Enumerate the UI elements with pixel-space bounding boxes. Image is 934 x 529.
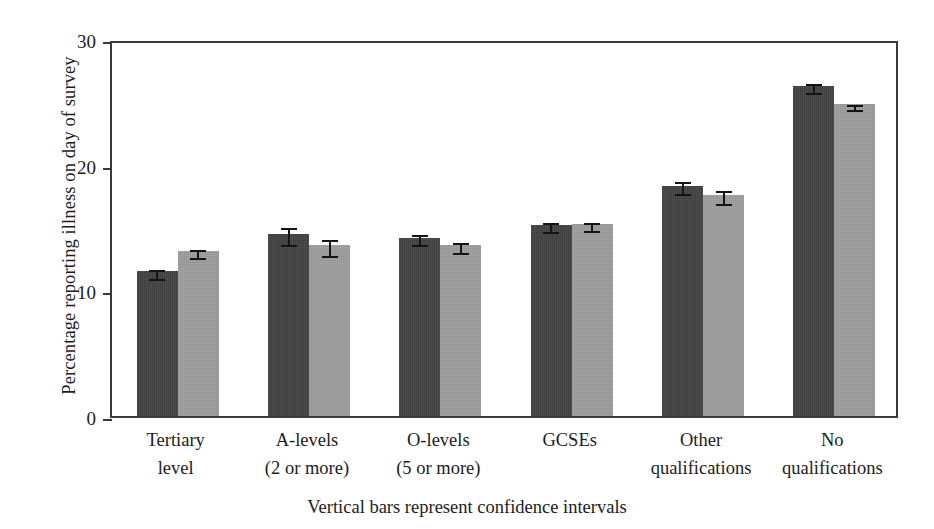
y-tick-mark [103,419,112,421]
y-tick-label: 20 [56,155,96,181]
x-category-label: GCSEs [504,426,635,454]
bar-series-container [112,43,896,416]
y-tick-mark [103,42,112,44]
error-bar-cap-lower [149,279,165,281]
error-bar-cap-lower [675,194,691,196]
bar-dark [793,86,834,417]
bar-group [137,43,219,416]
bar-light [178,251,219,416]
bar-light [309,245,350,416]
bar-group [268,43,350,416]
bar-group [662,43,744,416]
chart-figure: Percentage reporting illness on day of s… [0,0,934,529]
error-bar-cap-upper [716,191,732,193]
x-category-label: Tertiarylevel [110,426,241,482]
x-category-label-line2: (5 or more) [373,454,504,482]
x-category-label-line2: qualifications [767,454,898,482]
bar-dark [268,234,309,416]
error-bar-cap-lower [412,245,428,247]
error-bar-cap-upper [675,182,691,184]
x-axis-category-labels: TertiarylevelA-levels(2 or more)O-levels… [110,426,898,492]
error-bar-cap-lower [806,93,822,95]
x-category-label-line2: qualifications [635,454,766,482]
x-category-label-line1: A-levels [241,426,372,454]
y-tick-label: 0 [56,406,96,432]
y-tick-label: 30 [56,29,96,55]
y-tick-mark [103,293,112,295]
x-category-label: O-levels(5 or more) [373,426,504,482]
error-bar-cap-lower [281,245,297,247]
x-category-label-line1: Other [635,426,766,454]
bar-dark [531,225,572,416]
bar-light [834,104,875,416]
plot-area: 0102030 [110,41,898,418]
error-bar-cap-upper [190,250,206,252]
bar-group [531,43,613,416]
error-bar-cap-upper [847,105,863,107]
bar-group [399,43,481,416]
error-bar-cap-upper [543,223,559,225]
error-bar-cap-upper [281,228,297,230]
error-bar-cap-upper [453,243,469,245]
error-bar-cap-lower [543,232,559,234]
y-tick-mark [103,168,112,170]
bar-dark [399,238,440,416]
error-bar-cap-upper [149,270,165,272]
error-bar-cap-lower [190,258,206,260]
x-category-label-line2: level [110,454,241,482]
x-category-label-line1: Tertiary [110,426,241,454]
error-bar-cap-lower [584,231,600,233]
bar-light [572,224,613,416]
error-bar-cap-upper [584,223,600,225]
y-tick-label: 10 [56,280,96,306]
error-bar-cap-lower [716,204,732,206]
bar-group [793,43,875,416]
x-category-label-line1: O-levels [373,426,504,454]
bar-dark [662,186,703,416]
chart-caption: Vertical bars represent confidence inter… [0,497,934,518]
x-category-label: Noqualifications [767,426,898,482]
y-axis-title: Percentage reporting illness on day of s… [59,11,80,441]
bar-dark [137,271,178,416]
error-bar-cap-upper [806,84,822,86]
x-category-label-line2: (2 or more) [241,454,372,482]
x-category-label-line1: No [767,426,898,454]
x-category-label-line1: GCSEs [504,426,635,454]
error-bar-cap-upper [322,240,338,242]
error-bar-cap-lower [322,256,338,258]
bar-light [440,245,481,416]
error-bar-cap-lower [453,253,469,255]
bar-light [703,195,744,416]
error-bar-cap-lower [847,110,863,112]
x-category-label: Otherqualifications [635,426,766,482]
error-bar-cap-upper [412,235,428,237]
x-category-label: A-levels(2 or more) [241,426,372,482]
